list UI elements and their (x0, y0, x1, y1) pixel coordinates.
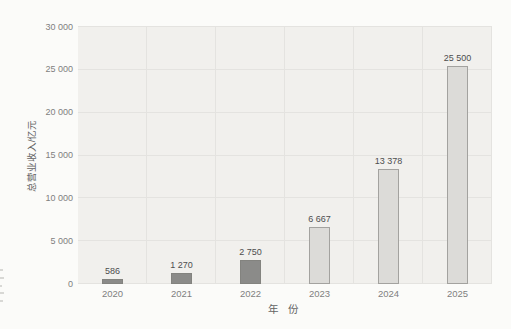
bar-2022 (240, 260, 261, 284)
data-label-2024: 13 378 (375, 156, 403, 166)
x-tick-label-2025: 2025 (428, 288, 488, 299)
gridline-vertical (146, 27, 147, 284)
plot-area: 5861 2702 7506 66713 37825 500 (78, 27, 492, 284)
bar-2021 (171, 273, 192, 284)
gridline-vertical (284, 27, 285, 284)
bar-2023 (309, 227, 330, 284)
gridline-horizontal (78, 283, 492, 284)
gridline-horizontal (78, 69, 492, 70)
x-tick-label-2023: 2023 (290, 288, 350, 299)
y-tick-label: 0 (0, 279, 73, 289)
y-tick-label: 25 000 (0, 64, 73, 74)
y-tick-label: 10 000 (0, 193, 73, 203)
gridline-horizontal (78, 26, 492, 27)
y-tick-label: 30 000 (0, 22, 73, 32)
bar-2024 (378, 169, 399, 284)
data-label-2020: 586 (105, 266, 120, 276)
gridline-vertical (215, 27, 216, 284)
gridline-horizontal (78, 240, 492, 241)
x-tick-label-2022: 2022 (221, 288, 281, 299)
x-tick-label-2020: 2020 (83, 288, 143, 299)
gridline-vertical (353, 27, 354, 284)
data-label-2023: 6 667 (308, 214, 331, 224)
gridline-horizontal (78, 155, 492, 156)
x-axis-title: 年 份 (268, 301, 303, 316)
bar-2020 (102, 279, 123, 284)
bar-2025 (447, 66, 468, 284)
data-label-2022: 2 750 (239, 247, 262, 257)
gridline-vertical (422, 27, 423, 284)
gridline-vertical (491, 27, 492, 284)
y-tick-label: 15 000 (0, 150, 73, 160)
gridline-horizontal (78, 112, 492, 113)
x-tick-label-2024: 2024 (359, 288, 419, 299)
gridline-horizontal (78, 197, 492, 198)
data-label-2025: 25 500 (444, 53, 472, 63)
y-tick-label: 20 000 (0, 107, 73, 117)
data-label-2021: 1 270 (170, 260, 193, 270)
bar-chart: 总营业收入/亿元 5861 2702 7506 66713 37825 500 … (0, 0, 511, 329)
x-tick-label-2021: 2021 (152, 288, 212, 299)
y-tick-label: 5 000 (0, 236, 73, 246)
